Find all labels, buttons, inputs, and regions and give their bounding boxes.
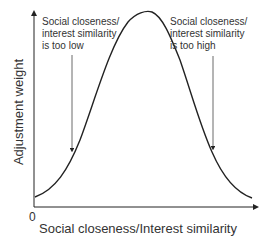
origin-label: 0 — [29, 210, 36, 224]
too-low-annotation: Social closeness/ interest similarity is… — [42, 16, 122, 51]
x-axis-label: Social closeness/Interest similarity — [39, 221, 237, 236]
bell-curve-diagram: Social closeness/ interest similarity is… — [0, 0, 265, 247]
too-high-annotation: Social closeness/ interest similarity is… — [170, 16, 250, 51]
y-axis-label: Adjustment weight — [11, 59, 26, 166]
